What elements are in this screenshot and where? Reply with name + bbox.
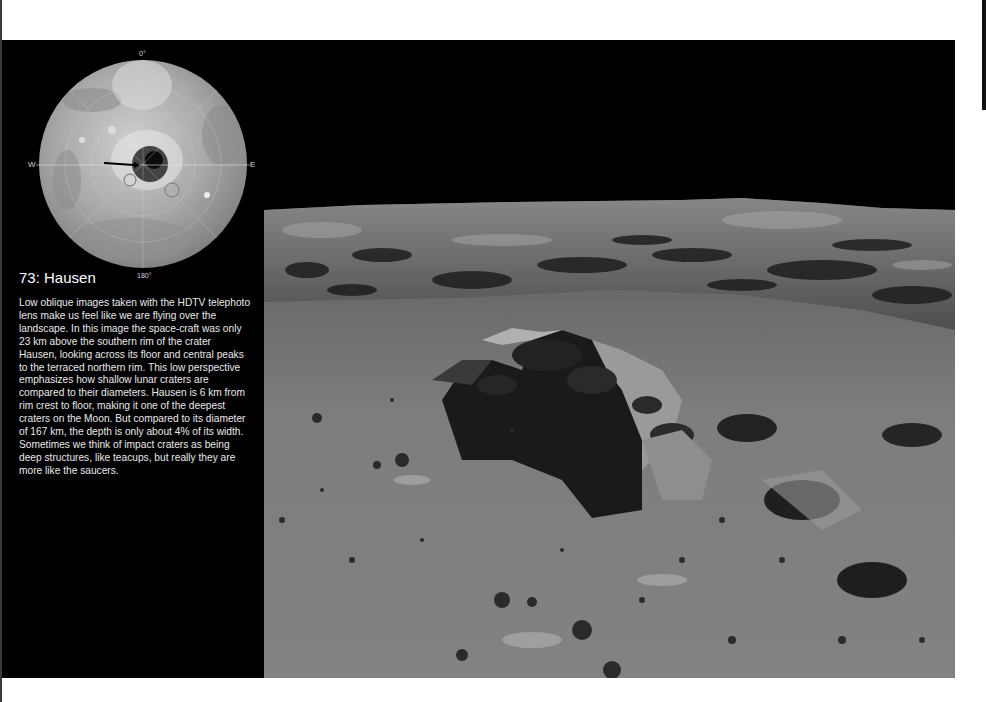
lunar-locator-map: 0° 180° W E bbox=[22, 40, 267, 280]
lunar-surface-image bbox=[262, 40, 955, 678]
caption-title: 73: Hausen bbox=[19, 269, 96, 286]
page-edge-marker bbox=[982, 0, 986, 110]
map-label-east: E bbox=[250, 160, 255, 169]
black-page-panel: 0° 180° W E 73: Hausen Low oblique image… bbox=[2, 40, 955, 678]
map-label-north: 0° bbox=[139, 50, 146, 57]
caption-body: Low oblique images taken with the HDTV t… bbox=[19, 297, 251, 478]
map-label-west: W bbox=[28, 160, 36, 169]
moon-globe-icon bbox=[22, 40, 267, 280]
map-label-south: 180° bbox=[137, 272, 151, 279]
hausen-crater-photo bbox=[262, 40, 955, 678]
